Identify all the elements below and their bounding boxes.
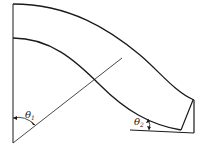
radial-line: [13, 58, 122, 143]
theta2-arrow-bottom: [147, 126, 151, 130]
theta1-label: θ1: [25, 109, 35, 121]
outer-curve: [13, 4, 194, 100]
theta1-arrow-left: [13, 116, 17, 120]
horizontal-reference-line: [130, 130, 194, 133]
exit-slant-edge: [181, 100, 193, 130]
channel-diagram: θ1 θ2: [0, 0, 201, 149]
inner-curve: [13, 38, 181, 130]
